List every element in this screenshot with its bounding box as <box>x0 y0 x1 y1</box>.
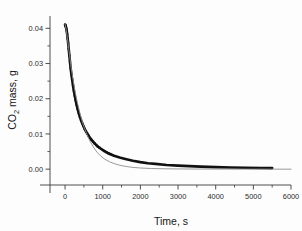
y-tick-label: 0.02 <box>29 94 43 103</box>
data-marker <box>109 153 111 155</box>
y-tick-label: 0.04 <box>29 24 43 33</box>
x-tick-label: 2000 <box>132 192 148 201</box>
y-tick-label: 0.01 <box>29 130 43 139</box>
y-tick-label: 0.00 <box>29 165 43 174</box>
chart-canvas: 0.000.010.020.030.0401000200030004000500… <box>0 0 302 231</box>
y-tick-label: 0.03 <box>29 59 43 68</box>
x-tick-label: 5000 <box>245 192 261 201</box>
x-tick-label: 4000 <box>207 192 223 201</box>
data-marker <box>107 152 109 154</box>
x-tick-label: 0 <box>63 192 67 201</box>
chart-figure: 0.000.010.020.030.0401000200030004000500… <box>0 0 302 231</box>
x-tick-label: 3000 <box>170 192 186 201</box>
x-tick-label: 1000 <box>94 192 110 201</box>
x-tick-label: 6000 <box>283 192 299 201</box>
